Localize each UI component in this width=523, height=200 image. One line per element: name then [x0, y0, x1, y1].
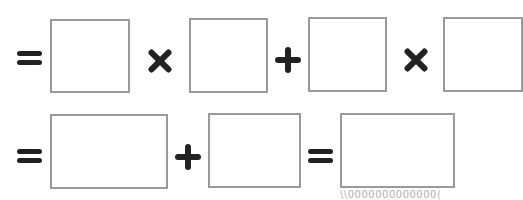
- answer-box-row1-4[interactable]: [443, 17, 523, 92]
- cropped-text-fragment: \\0000000000000(: [340, 190, 441, 200]
- answer-box-row2-2[interactable]: [208, 113, 301, 188]
- plus-sign-icon: [275, 47, 301, 73]
- equals-sign-icon: [17, 149, 42, 165]
- answer-box-row2-3[interactable]: [340, 113, 455, 188]
- answer-box-row2-1[interactable]: [50, 114, 168, 189]
- equals-sign-icon: [17, 51, 42, 67]
- answer-box-row1-3[interactable]: [308, 17, 387, 92]
- equals-sign-icon: [308, 149, 333, 165]
- answer-box-row1-2[interactable]: [189, 18, 268, 93]
- multiply-sign-icon: [404, 48, 428, 72]
- plus-sign-icon: [175, 144, 201, 170]
- answer-box-row1-1[interactable]: [50, 19, 130, 93]
- multiply-sign-icon: [148, 49, 172, 73]
